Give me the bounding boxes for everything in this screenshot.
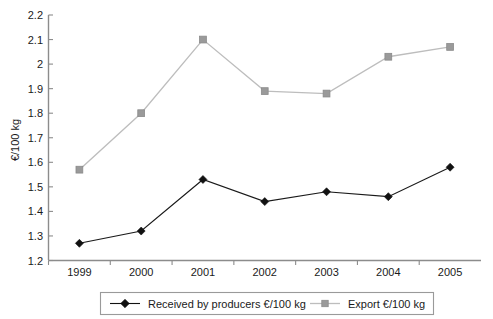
- diamond-marker-icon: [446, 163, 454, 171]
- y-axis-tick-label: 2: [37, 58, 43, 70]
- square-marker-icon: [138, 110, 145, 117]
- square-marker-icon: [200, 36, 207, 43]
- x-axis-tick-label: 2005: [438, 266, 462, 278]
- square-marker-icon: [76, 166, 83, 173]
- legend-label-export: Export €/100 kg: [348, 298, 425, 310]
- series-markers-export: [76, 36, 454, 173]
- x-axis-tick-label: 2001: [191, 266, 215, 278]
- x-axis-tick-label: 1999: [67, 266, 91, 278]
- diamond-marker-icon: [75, 239, 83, 247]
- square-marker-icon: [323, 90, 330, 97]
- y-axis-tick-label: 1.4: [28, 205, 43, 217]
- legend-label-producers: Received by producers €/100 kg: [148, 298, 306, 310]
- y-axis-tick-label: 2.1: [28, 34, 43, 46]
- x-axis-tick-labels: 1999200020012002200320042005: [67, 266, 462, 278]
- y-axis-tick-label: 1.3: [28, 230, 43, 242]
- y-axis-tick-label: 1.5: [28, 181, 43, 193]
- series-line-export: [79, 40, 450, 170]
- y-axis-tick-label: 1.9: [28, 83, 43, 95]
- x-axis-tick-label: 2000: [129, 266, 153, 278]
- square-marker-icon: [322, 300, 328, 306]
- y-axis-tick-label: 1.8: [28, 107, 43, 119]
- diamond-marker-icon: [384, 193, 392, 201]
- x-axis-tick-label: 2004: [376, 266, 400, 278]
- diamond-marker-icon: [323, 188, 331, 196]
- y-axis-title: €/100 kg: [9, 119, 21, 161]
- y-axis-tick-label: 2.2: [28, 9, 43, 21]
- y-axis-tick-labels: 1.21.31.41.51.61.71.81.922.12.2: [28, 9, 43, 267]
- y-axis-tick-label: 1.7: [28, 132, 43, 144]
- square-marker-icon: [261, 88, 268, 95]
- diamond-marker-icon: [261, 198, 269, 206]
- y-axis-tick-label: 1.2: [28, 255, 43, 267]
- chart-figure: 1.21.31.41.51.61.71.81.922.12.2 €/100 kg…: [0, 0, 493, 319]
- line-chart: 1.21.31.41.51.61.71.81.922.12.2 €/100 kg…: [0, 0, 493, 319]
- y-axis-tick-label: 1.6: [28, 156, 43, 168]
- square-marker-icon: [385, 53, 392, 60]
- x-axis-tick-label: 2003: [314, 266, 338, 278]
- x-axis-tick-label: 2002: [253, 266, 277, 278]
- series-markers-producers: [75, 163, 454, 247]
- square-marker-icon: [447, 44, 454, 51]
